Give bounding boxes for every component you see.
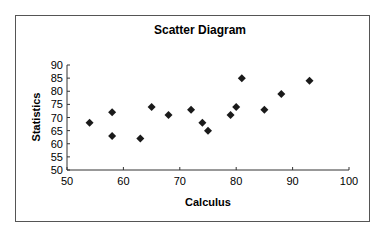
x-tick-label: 70	[174, 175, 186, 187]
data-point-diamond	[148, 103, 156, 111]
data-point-diamond	[136, 135, 144, 143]
x-tick-label: 50	[61, 175, 73, 187]
data-point-diamond	[260, 106, 268, 114]
scatter-chart: Scatter Diagram 506070809010050556065707…	[0, 0, 383, 233]
y-tick-label: 55	[51, 151, 63, 163]
data-point-diamond	[277, 90, 285, 98]
data-points	[86, 74, 314, 142]
y-tick-label: 70	[51, 112, 63, 124]
data-point-diamond	[238, 74, 246, 82]
y-tick-label: 75	[51, 98, 63, 110]
y-tick-label: 90	[51, 59, 63, 71]
x-axis-label: Calculus	[185, 196, 231, 208]
x-tick-label: 100	[340, 175, 358, 187]
data-point-diamond	[198, 119, 206, 127]
data-point-diamond	[108, 132, 116, 140]
y-tick-label: 65	[51, 125, 63, 137]
y-tick-label: 50	[51, 164, 63, 176]
data-point-diamond	[86, 119, 94, 127]
x-tick-label: 80	[230, 175, 242, 187]
y-tick-label: 80	[51, 85, 63, 97]
data-point-diamond	[232, 103, 240, 111]
y-tick-label: 60	[51, 138, 63, 150]
chart-title: Scatter Diagram	[154, 23, 246, 37]
data-point-diamond	[306, 77, 314, 85]
data-point-diamond	[108, 108, 116, 116]
x-tick-label: 60	[117, 175, 129, 187]
data-point-diamond	[204, 127, 212, 135]
data-point-diamond	[187, 106, 195, 114]
y-axis-label: Statistics	[30, 93, 42, 142]
x-tick-label: 90	[286, 175, 298, 187]
data-point-diamond	[165, 111, 173, 119]
data-point-diamond	[227, 111, 235, 119]
y-tick-label: 85	[51, 72, 63, 84]
